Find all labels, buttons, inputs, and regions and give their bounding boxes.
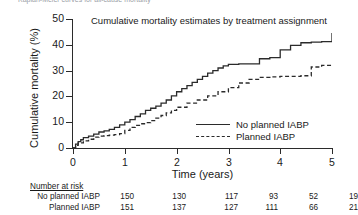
y-tick-label-30: 30 [42, 65, 64, 75]
y-tick-label-40: 40 [42, 39, 64, 49]
x-tick-label-2: 2 [167, 156, 187, 168]
x-tick-label-1: 1 [115, 156, 135, 168]
legend-item-no-planned-iabp: No planned IABP [196, 118, 309, 130]
table-row: Planned IABP 151 137 127 111 66 21 [0, 203, 342, 214]
x-axis-title: Time (years) [73, 168, 332, 180]
risk-value: 137 [160, 203, 186, 212]
risk-value: 127 [212, 203, 238, 212]
table-row: No planned IABP 150 130 117 93 52 19 [0, 192, 342, 203]
risk-value: 150 [108, 192, 134, 201]
legend-item-planned-iabp: Planned IABP [196, 130, 309, 142]
clipped-header-text: Kaplan-Meier curves for all-cause mortal… [18, 0, 324, 4]
y-tick-label-20: 20 [42, 90, 64, 100]
risk-value: 151 [108, 203, 134, 212]
x-tick-label-4: 4 [270, 156, 290, 168]
legend-swatch-dashed-icon [196, 136, 230, 137]
risk-value: 117 [212, 192, 238, 201]
risk-value: 52 [292, 192, 318, 201]
legend: No planned IABP Planned IABP [196, 118, 309, 142]
risk-value: 111 [252, 203, 278, 212]
x-tick-label-0: 0 [63, 156, 83, 168]
legend-label-no-planned-iabp: No planned IABP [236, 119, 309, 130]
risk-value: 93 [252, 192, 278, 201]
y-tick-label-50: 50 [42, 13, 64, 23]
risk-value: 21 [332, 203, 358, 212]
y-axis-title-host: Cumulative mortality (%) [10, 18, 34, 148]
risk-value: 19 [332, 192, 358, 201]
y-tick-label-0: 0 [42, 142, 64, 152]
x-tick-label-3: 3 [219, 156, 239, 168]
legend-swatch-solid-icon [196, 124, 230, 125]
number-at-risk-title: Number at risk [30, 182, 83, 191]
y-axis-title: Cumulative mortality (%) [28, 18, 40, 158]
x-tick-label-5: 5 [322, 156, 342, 168]
legend-label-planned-iabp: Planned IABP [236, 131, 295, 142]
x-axis-line [72, 148, 333, 149]
risk-row-label-planned-iabp: Planned IABP [0, 203, 100, 212]
risk-value: 130 [160, 192, 186, 201]
risk-value: 66 [292, 203, 318, 212]
risk-row-label-no-planned-iabp: No planned IABP [0, 192, 100, 201]
y-tick-label-10: 10 [42, 116, 64, 126]
